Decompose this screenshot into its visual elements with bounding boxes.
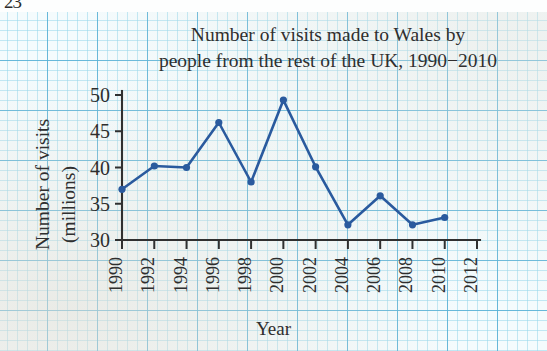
data-point: [215, 119, 222, 126]
y-tick-label: 45: [90, 120, 110, 142]
x-tick-label: 1990: [106, 257, 126, 293]
x-tick-label: 2004: [332, 257, 352, 293]
data-point: [151, 162, 158, 169]
x-tick-label-group: 1990199219941996199820002002200420062008…: [106, 257, 481, 293]
x-tick-label: 2010: [429, 257, 449, 293]
data-point: [377, 192, 384, 199]
x-tick-label: 2000: [267, 257, 287, 293]
x-tick-label: 1992: [138, 257, 158, 293]
x-tick-label: 2012: [461, 257, 481, 293]
x-tick-label: 1998: [235, 257, 255, 293]
y-tick-label: 30: [90, 229, 110, 251]
data-series-group: [122, 100, 445, 225]
y-tick-label: 50: [90, 84, 110, 106]
chart-title-line-1: Number of visits made to Wales by: [191, 24, 465, 45]
data-point: [183, 164, 190, 171]
x-tick-label: 2008: [396, 257, 416, 293]
y-axis-label-line-1: Number of visits: [32, 119, 54, 250]
x-tick-label: 1996: [203, 257, 223, 293]
data-point-group: [118, 97, 448, 229]
page-number: 23: [4, 0, 21, 13]
data-point: [118, 186, 125, 193]
data-point: [248, 178, 255, 185]
chart-title-line-2: people from the rest of the UK, 1990−201…: [118, 48, 538, 74]
chart-title: Number of visits made to Wales by people…: [118, 22, 538, 74]
y-tick-label-group: 3035404550: [90, 84, 110, 251]
data-point: [312, 163, 319, 170]
axis-tick-group: [115, 95, 477, 249]
x-tick-label: 2002: [300, 257, 320, 293]
axis-line-group: [122, 91, 480, 240]
y-tick-label: 35: [90, 193, 110, 215]
x-tick-label: 1994: [171, 257, 191, 293]
data-point: [409, 221, 416, 228]
y-axis-label-line-2: (millions): [58, 166, 80, 243]
y-tick-label: 40: [90, 157, 110, 179]
data-point: [441, 214, 448, 221]
x-tick-label: 2006: [364, 257, 384, 293]
data-point: [280, 97, 287, 104]
data-line: [122, 100, 445, 225]
data-point: [344, 221, 351, 228]
x-axis-label: Year: [0, 318, 547, 340]
